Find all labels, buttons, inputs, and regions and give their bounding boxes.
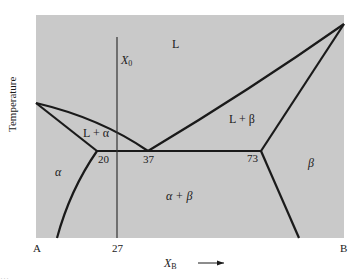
region-label-beta: β	[308, 157, 314, 169]
x-axis-label-subscript: B	[171, 262, 176, 271]
region-label-alpha: α	[55, 166, 61, 178]
xb-arrow-head-icon	[217, 261, 224, 266]
phase-diagram-figure: Temperature L L + α L + β α β α + β X0 2…	[0, 0, 360, 279]
eutectic-beta-limit-label: 73	[247, 153, 258, 164]
endpoint-label-b: B	[340, 243, 347, 254]
x0-value-label: 27	[112, 243, 123, 254]
region-label-alpha-beta: α + β	[166, 190, 192, 202]
phase-diagram-plot	[0, 0, 360, 279]
x0-label: X0	[121, 54, 132, 68]
region-label-liquid: L	[172, 38, 179, 50]
region-label-liquid-alpha: L + α	[83, 127, 109, 139]
y-axis-label: Temperature	[6, 77, 18, 132]
endpoint-label-a: A	[33, 243, 41, 254]
figure-caption: …	[0, 271, 360, 279]
eutectic-alpha-limit-label: 20	[98, 154, 109, 165]
eutectic-point-label: 37	[143, 154, 154, 165]
x0-label-subscript: 0	[128, 59, 132, 68]
region-label-liquid-beta: L + β	[229, 113, 255, 125]
x-axis-label: XB	[164, 257, 177, 271]
